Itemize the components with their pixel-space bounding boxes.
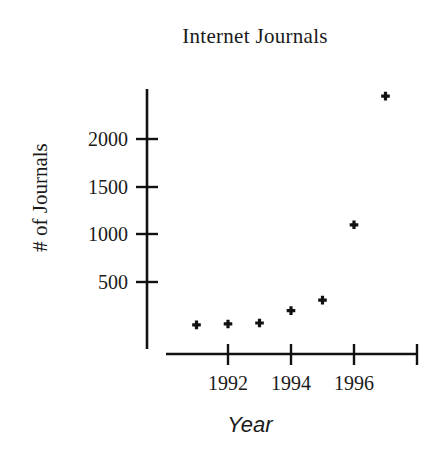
- data-point-group: [192, 92, 390, 329]
- data-point: [287, 306, 296, 315]
- x-tick-label-0: 1992: [208, 372, 248, 394]
- plot-area: 2000 1500 1000 500 1992 1994 1996: [0, 0, 440, 474]
- y-tick-label-3: 500: [98, 271, 128, 293]
- x-tick-label-1: 1994: [271, 372, 311, 394]
- data-point: [381, 92, 390, 101]
- x-tick-label-2: 1996: [334, 372, 374, 394]
- y-tick-label-1: 1500: [88, 176, 128, 198]
- y-tick-label-0: 2000: [88, 128, 128, 150]
- data-point: [350, 221, 359, 230]
- data-point: [192, 321, 201, 330]
- y-axis-tick-labels: 2000 1500 1000 500: [88, 128, 128, 293]
- x-axis-tick-labels: 1992 1994 1996: [208, 372, 374, 394]
- chart-figure: Internet Journals # of Journals Year 200…: [0, 0, 440, 474]
- data-point: [255, 319, 264, 328]
- data-point: [318, 296, 327, 305]
- data-point: [224, 320, 233, 329]
- y-tick-label-2: 1000: [88, 223, 128, 245]
